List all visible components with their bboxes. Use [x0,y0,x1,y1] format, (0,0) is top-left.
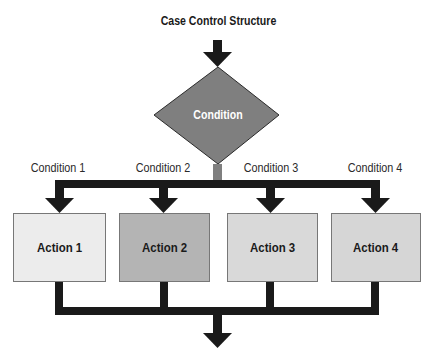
flowchart-connectors [0,0,437,363]
action-label-4: Action 4 [353,240,398,255]
exit-arrow-icon [203,314,232,348]
action-box-2: Action 2 [119,213,210,282]
decision-label: Condition [174,108,262,122]
condition-label-2: Condition 2 [123,161,204,175]
merge-bar-bottom [55,307,379,315]
condition-label-3: Condition 3 [231,161,312,175]
action-label-1: Action 1 [37,240,82,255]
branch-bar-top [55,180,380,188]
action-label-2: Action 2 [142,240,187,255]
action-label-3: Action 3 [250,240,295,255]
action-box-3: Action 3 [227,213,318,282]
action-box-4: Action 4 [331,213,421,282]
condition-label-4: Condition 4 [335,161,416,175]
decision-stem [213,164,222,181]
entry-arrow-icon [203,40,232,67]
condition-label-1: Condition 1 [18,161,99,175]
action-box-1: Action 1 [13,213,106,282]
